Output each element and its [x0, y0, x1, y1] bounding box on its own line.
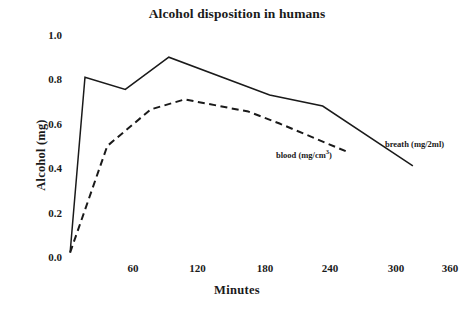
series-line-breath [70, 57, 413, 252]
series-annotation-blood: blood (mg/cm3) [276, 150, 332, 160]
series-line-blood [70, 99, 349, 252]
series-annotation-breath: breath (mg/2ml) [385, 139, 444, 149]
series-annotation-blood-text: blood (mg/cm [276, 150, 326, 160]
plot-svg [0, 0, 474, 309]
series-annotation-blood-suffix: ) [329, 150, 332, 160]
chart-figure: Alcohol disposition in humans Alcohol (m… [0, 0, 474, 309]
plot-area [0, 0, 474, 309]
